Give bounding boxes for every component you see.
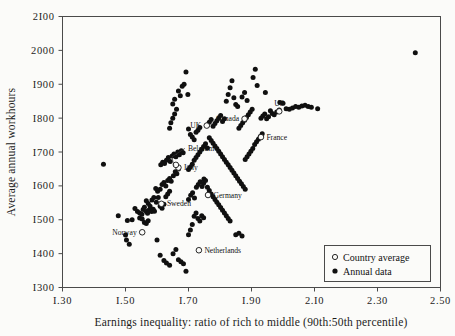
data-point bbox=[181, 261, 186, 266]
data-point bbox=[240, 234, 245, 239]
data-point bbox=[163, 183, 168, 188]
x-tick-label: 2.30 bbox=[367, 295, 388, 306]
data-point bbox=[242, 90, 247, 95]
data-point bbox=[172, 97, 177, 102]
data-point bbox=[229, 78, 234, 83]
data-point bbox=[130, 217, 135, 222]
y-tick-label: I400 bbox=[33, 248, 55, 259]
open-circle-icon bbox=[196, 247, 202, 253]
legend-filled-dot-icon bbox=[332, 268, 337, 273]
data-point bbox=[154, 200, 159, 205]
country-label: Norway bbox=[112, 228, 137, 237]
country-label: US bbox=[274, 99, 284, 108]
data-point bbox=[127, 242, 132, 247]
country-label: Canada bbox=[216, 114, 239, 123]
open-circle-icon bbox=[205, 192, 211, 198]
data-point bbox=[156, 195, 161, 200]
scatter-chart: I300I400I500I600I700I800I90020002I00 I.3… bbox=[0, 0, 455, 336]
country-label: Germany bbox=[214, 191, 242, 200]
country-label: Italy bbox=[184, 163, 198, 172]
data-point bbox=[240, 95, 245, 100]
data-point bbox=[228, 85, 233, 90]
country-label: Sweden bbox=[167, 199, 191, 208]
data-point bbox=[190, 190, 195, 195]
y-tick-label: I700 bbox=[33, 147, 55, 158]
data-point bbox=[142, 205, 147, 210]
data-point bbox=[152, 209, 157, 214]
data-point bbox=[148, 204, 153, 209]
data-point bbox=[197, 219, 202, 224]
y-tick-label: 2000 bbox=[31, 45, 54, 56]
x-tick-label: I.90 bbox=[242, 295, 261, 306]
open-circle-icon bbox=[204, 123, 210, 129]
data-point bbox=[203, 178, 208, 183]
y-tick-label: I300 bbox=[33, 282, 55, 293]
data-point bbox=[186, 232, 191, 237]
x-tick-label: I.50 bbox=[116, 295, 135, 306]
legend-open-circle-icon bbox=[332, 254, 337, 259]
open-circle-icon bbox=[276, 109, 282, 115]
y-tick-label: I500 bbox=[33, 214, 55, 225]
data-point bbox=[209, 117, 214, 122]
data-point bbox=[174, 171, 179, 176]
data-point bbox=[228, 219, 233, 224]
data-point bbox=[167, 263, 172, 268]
data-point bbox=[263, 90, 268, 95]
legend-label-annual-data: Annual data bbox=[343, 266, 392, 277]
data-point bbox=[194, 210, 199, 215]
data-point bbox=[178, 93, 183, 98]
country-label: Belgium bbox=[188, 144, 214, 153]
data-point bbox=[192, 137, 197, 142]
data-point bbox=[253, 67, 258, 72]
open-circle-icon bbox=[258, 134, 264, 140]
y-tick-label: I800 bbox=[33, 113, 55, 124]
data-point bbox=[251, 75, 256, 80]
data-point bbox=[168, 120, 173, 125]
data-point bbox=[176, 89, 181, 94]
data-point bbox=[140, 217, 145, 222]
y-tick-label: I600 bbox=[33, 180, 55, 191]
data-point bbox=[171, 251, 176, 256]
data-point bbox=[192, 196, 197, 201]
y-tick-label: 2I00 bbox=[33, 11, 55, 22]
data-point bbox=[309, 105, 314, 110]
x-tick-label: I.30 bbox=[53, 295, 72, 306]
data-point bbox=[172, 112, 177, 117]
data-point bbox=[231, 95, 236, 100]
data-point bbox=[174, 107, 179, 112]
data-point bbox=[183, 269, 188, 274]
data-point bbox=[146, 218, 151, 223]
open-circle-icon bbox=[139, 229, 145, 235]
data-point bbox=[169, 179, 174, 184]
open-circle-icon bbox=[159, 201, 165, 207]
open-circle-icon bbox=[242, 116, 248, 122]
data-point bbox=[255, 83, 260, 88]
data-point bbox=[158, 253, 163, 258]
data-point bbox=[201, 215, 206, 220]
data-point bbox=[190, 222, 195, 227]
data-point bbox=[173, 247, 178, 252]
data-point bbox=[125, 218, 130, 223]
data-point bbox=[155, 189, 160, 194]
data-point bbox=[170, 101, 175, 106]
data-point bbox=[167, 126, 172, 131]
data-point bbox=[188, 227, 193, 232]
data-point bbox=[155, 238, 160, 243]
data-point bbox=[315, 106, 320, 111]
data-point bbox=[183, 70, 188, 75]
data-point bbox=[245, 98, 250, 103]
y-tick-label: I900 bbox=[33, 79, 55, 90]
data-point bbox=[235, 104, 240, 109]
data-point bbox=[182, 82, 187, 87]
data-point bbox=[243, 187, 248, 192]
data-point bbox=[413, 50, 418, 55]
data-point bbox=[224, 99, 229, 104]
x-axis-title: Earnings inequality: ratio of rich to mi… bbox=[95, 316, 408, 329]
data-point bbox=[226, 92, 231, 97]
data-point bbox=[151, 195, 156, 200]
chart-legend: Country average Annual data bbox=[325, 246, 431, 282]
legend-label-country-average: Country average bbox=[343, 252, 410, 263]
data-point bbox=[185, 92, 190, 97]
country-label: UK bbox=[190, 121, 201, 130]
country-label: France bbox=[266, 133, 287, 142]
